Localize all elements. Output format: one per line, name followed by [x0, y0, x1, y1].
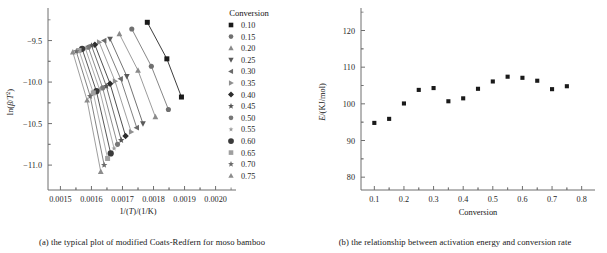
- x-ticklabel: 0.0020: [204, 195, 227, 204]
- marker-square: [387, 117, 391, 121]
- legend-label: 0.20: [241, 44, 255, 53]
- marker-triangle-down: [228, 58, 233, 63]
- marker-star: [228, 103, 234, 109]
- marker-star-small: [229, 127, 234, 132]
- legend-label: 0.25: [241, 56, 255, 65]
- series-0.60: [79, 46, 114, 157]
- marker-star: [118, 137, 124, 143]
- marker-circle-large: [228, 138, 234, 144]
- legend-title: Conversion: [229, 8, 269, 18]
- x-ticklabel: 0.8: [577, 195, 587, 204]
- x-ticklabel: 0.3: [428, 195, 438, 204]
- marker-diamond: [228, 92, 234, 98]
- marker-square: [491, 79, 495, 83]
- marker-star: [228, 103, 234, 109]
- legend: Conversion0.100.150.200.250.300.350.400.…: [228, 8, 270, 181]
- x-axis-title: 1/(T)/(1/K): [119, 207, 156, 216]
- marker-square: [506, 75, 510, 79]
- series-activation-energy: [372, 75, 569, 125]
- marker-star: [101, 162, 107, 168]
- marker-star: [228, 161, 234, 167]
- marker-triangle-left: [101, 38, 106, 44]
- marker-circle-large: [108, 150, 114, 156]
- marker-circle: [229, 34, 234, 39]
- marker-triangle-up: [153, 114, 159, 119]
- marker-square: [476, 87, 480, 91]
- legend-label: 0.60: [241, 137, 255, 146]
- marker-square: [145, 20, 150, 25]
- marker-diamond: [228, 92, 234, 98]
- marker-triangle-down: [107, 37, 113, 42]
- marker-circle: [115, 142, 120, 147]
- panel-coats-redfern: −9.5−10.0−10.5−11.00.00150.00160.00170.0…: [0, 0, 304, 253]
- marker-triangle-down: [124, 74, 130, 79]
- x-ticklabel: 0.0015: [49, 195, 72, 204]
- marker-star-small: [111, 146, 116, 151]
- y-axis-title: ln(β/T2): [5, 89, 15, 115]
- x-ticklabel: 0.0018: [142, 195, 165, 204]
- x-ticklabel: 0.0017: [111, 195, 134, 204]
- series-0.75: [70, 49, 104, 174]
- marker-triangle-up: [135, 67, 141, 72]
- marker-square: [520, 76, 524, 80]
- series-0.15: [129, 26, 171, 112]
- y-ticklabel: −10.0: [23, 78, 42, 87]
- marker-square-light: [229, 150, 234, 155]
- marker-triangle-up: [228, 45, 233, 50]
- series-0.65: [77, 48, 111, 161]
- marker-triangle-up: [98, 169, 104, 174]
- marker-square: [535, 79, 539, 83]
- marker-star-small: [229, 127, 234, 132]
- marker-triangle-left: [228, 69, 233, 74]
- marker-circle: [229, 115, 234, 120]
- marker-star: [228, 161, 234, 167]
- marker-square: [179, 95, 184, 100]
- legend-label: 0.45: [241, 102, 255, 111]
- y-ticklabel: 100: [343, 100, 355, 109]
- legend-label: 0.50: [241, 114, 255, 123]
- chart-coats-redfern: −9.5−10.0−10.5−11.00.00150.00160.00170.0…: [0, 0, 304, 225]
- marker-diamond: [122, 133, 129, 140]
- marker-square: [565, 84, 569, 88]
- x-ticklabel: 0.0016: [80, 195, 103, 204]
- marker-square: [417, 88, 421, 92]
- marker-square: [461, 96, 465, 100]
- y-axis-title: E/(KJ/mol): [318, 83, 327, 122]
- marker-square-light: [91, 90, 96, 95]
- marker-triangle-up: [117, 31, 123, 36]
- legend-label: 0.65: [241, 149, 255, 158]
- y-ticklabel: −10.5: [23, 120, 42, 129]
- y-ticklabel: 90: [347, 137, 355, 146]
- x-ticklabel: 0.2: [399, 195, 409, 204]
- x-ticklabel: 0.0019: [173, 195, 196, 204]
- marker-star: [101, 162, 107, 168]
- series-0.55: [83, 45, 117, 150]
- marker-circle: [166, 107, 171, 112]
- legend-label: 0.75: [241, 172, 255, 181]
- series-0.70: [73, 48, 107, 168]
- marker-square: [229, 23, 234, 28]
- figure-container: −9.5−10.0−10.5−11.00.00150.00160.00170.0…: [0, 0, 607, 253]
- marker-circle: [149, 64, 154, 69]
- y-ticklabel: 80: [347, 173, 355, 182]
- marker-triangle-right: [229, 80, 234, 85]
- legend-label: 0.40: [241, 91, 255, 100]
- x-ticklabel: 0.6: [517, 195, 527, 204]
- marker-square-light: [105, 156, 110, 161]
- marker-square: [164, 56, 169, 61]
- marker-star: [118, 137, 124, 143]
- y-ticklabel: −11.0: [23, 161, 42, 170]
- x-ticklabel: 0.5: [488, 195, 498, 204]
- legend-label: 0.15: [241, 33, 255, 42]
- x-ticklabel: 0.1: [369, 195, 379, 204]
- panel-activation-energy: 80901001101200.10.20.30.40.50.60.70.8Con…: [303, 0, 607, 253]
- marker-square: [446, 99, 450, 103]
- x-ticklabel: 0.7: [547, 195, 557, 204]
- marker-square: [550, 87, 554, 91]
- x-ticklabel: 0.4: [458, 195, 468, 204]
- caption-panel-a: (a) the typical plot of modified Coats-R…: [0, 237, 304, 247]
- y-ticklabel: 120: [343, 27, 355, 36]
- series-0.10: [145, 20, 184, 100]
- marker-square: [432, 86, 436, 90]
- marker-triangle-right: [129, 129, 134, 135]
